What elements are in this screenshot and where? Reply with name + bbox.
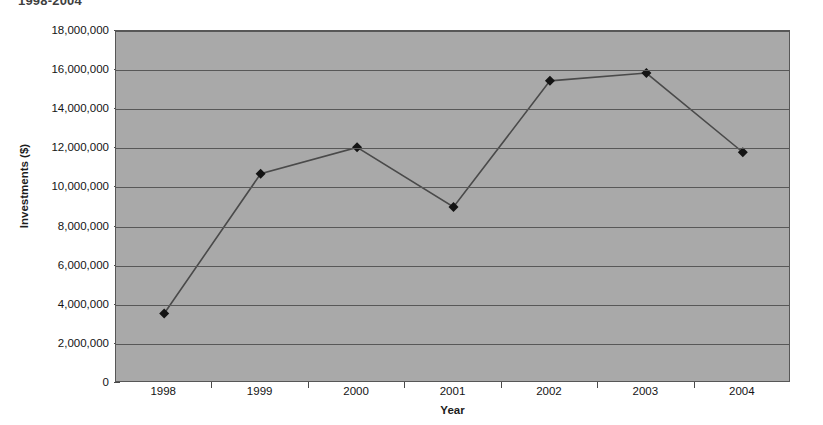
gridline <box>116 148 789 149</box>
y-axis-tick-label: 14,000,000 <box>13 102 109 114</box>
y-axis-tick-label: 4,000,000 <box>13 298 109 310</box>
chart-title: 1998-2004 <box>18 0 82 8</box>
gridline <box>116 31 789 32</box>
x-axis-title: Year <box>115 404 790 416</box>
gridline <box>116 344 789 345</box>
data-point-marker <box>256 169 266 179</box>
data-point-marker <box>159 309 169 319</box>
x-axis-tick-label: 2001 <box>440 385 466 397</box>
x-axis-tick-mark <box>694 382 695 388</box>
gridline <box>116 266 789 267</box>
gridline <box>116 109 789 110</box>
y-axis-tick-label: 2,000,000 <box>13 337 109 349</box>
x-axis-tick-mark <box>597 382 598 388</box>
gridline <box>116 305 789 306</box>
y-axis-tick-label: 16,000,000 <box>13 63 109 75</box>
y-axis-tick-label: 6,000,000 <box>13 259 109 271</box>
x-axis-tick-label: 2000 <box>343 385 369 397</box>
y-axis-tick-label: 12,000,000 <box>13 141 109 153</box>
y-axis-tick-label: 10,000,000 <box>13 180 109 192</box>
x-axis-tick-label: 1998 <box>150 385 176 397</box>
y-axis-tick-label: 18,000,000 <box>13 24 109 36</box>
data-series-layer <box>116 31 791 383</box>
x-axis-tick-labels: 1998199920002001200220032004 <box>115 385 790 405</box>
x-axis-tick-mark <box>308 382 309 388</box>
y-axis-tick-labels: 18,000,00016,000,00014,000,00012,000,000… <box>9 30 109 382</box>
plot-area <box>115 30 790 382</box>
gridline <box>116 227 789 228</box>
y-axis-tick-label: 8,000,000 <box>13 220 109 232</box>
x-axis-tick-label: 2004 <box>729 385 755 397</box>
x-axis-tick-label: 2003 <box>633 385 659 397</box>
x-axis-tick-mark <box>211 382 212 388</box>
line-chart: 1998-2004 Investments ($) 18,000,00016,0… <box>0 0 823 425</box>
x-axis-tick-label: 1999 <box>247 385 273 397</box>
gridline <box>116 70 789 71</box>
x-axis-tick-mark <box>501 382 502 388</box>
y-axis-tick-label: 0 <box>13 376 109 388</box>
x-axis-tick-mark <box>404 382 405 388</box>
x-axis-tick-label: 2002 <box>536 385 562 397</box>
gridline <box>116 187 789 188</box>
